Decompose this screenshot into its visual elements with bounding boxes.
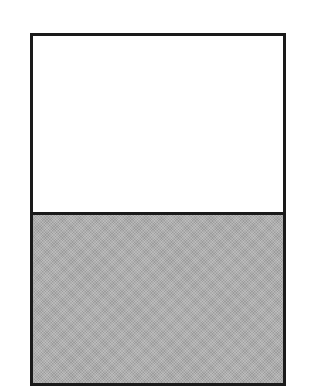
partitioned-rectangle	[30, 33, 286, 386]
bottom-region-shaded	[33, 215, 283, 383]
top-region-white	[33, 36, 283, 212]
